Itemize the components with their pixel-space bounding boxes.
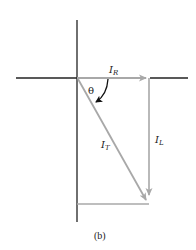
il-label: IL bbox=[154, 134, 164, 147]
it-label: IT bbox=[100, 139, 111, 152]
ir-label: IR bbox=[108, 64, 119, 77]
angle-arc-icon bbox=[96, 79, 108, 102]
it-phasor-arrow bbox=[78, 79, 146, 200]
figure-caption: (b) bbox=[94, 230, 106, 242]
theta-label: θ bbox=[88, 85, 94, 96]
phasor-diagram: θ IR IL IT (b) bbox=[0, 0, 196, 250]
